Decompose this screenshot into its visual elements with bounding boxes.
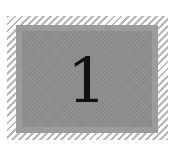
number-label: 1 (16, 25, 158, 135)
